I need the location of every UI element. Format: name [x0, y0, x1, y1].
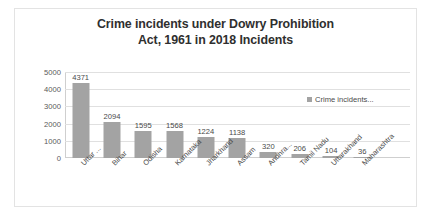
chart-title: Crime incidents under Dowry Prohibition …	[15, 16, 416, 48]
bar-slot[interactable]: 2094	[96, 72, 127, 158]
y-tick-label: 3000	[44, 102, 61, 111]
x-tick-slot: Odisha	[128, 159, 159, 207]
plot-area: 4371 2094 1595 1568 1224 1138 320 206	[65, 72, 410, 158]
x-tick-slot: Uttar ...	[65, 159, 96, 207]
x-tick-slot: Bihar	[96, 159, 127, 207]
bar-slot[interactable]: 4371	[65, 72, 96, 158]
bar[interactable]	[72, 83, 89, 158]
chart-card: Crime incidents under Dowry Prohibition …	[14, 8, 417, 207]
bar-slot[interactable]: 1595	[128, 72, 159, 158]
y-tick-label: 2000	[44, 119, 61, 128]
y-axis-tick-labels: 0 1000 2000 3000 4000 5000	[29, 72, 61, 158]
legend-swatch-icon	[307, 97, 312, 102]
x-tick-slot: Andhra...	[253, 159, 284, 207]
x-axis-tick-labels: Uttar ... Bihar Odisha Karnataka Jharkha…	[65, 159, 410, 207]
y-tick-label: 4000	[44, 85, 61, 94]
bar-slot[interactable]: 320	[253, 72, 284, 158]
x-tick-slot: Tamil Nadu	[284, 159, 315, 207]
y-tick-label: 5000	[44, 68, 61, 77]
x-tick-slot: Maharashtra	[347, 159, 378, 207]
x-tick-slot: Jharkhand	[190, 159, 221, 207]
bar-value-label: 1224	[197, 127, 214, 136]
legend-label: Crime incidents...	[315, 95, 374, 104]
bar-value-label: 1595	[135, 121, 152, 130]
bar-value-label: 1138	[229, 128, 245, 137]
chart-legend[interactable]: Crime incidents...	[307, 95, 374, 104]
y-tick-label: 1000	[44, 136, 61, 145]
bar-slot[interactable]: 1568	[159, 72, 190, 158]
bar-value-label: 320	[262, 142, 275, 151]
bar-value-label: 206	[293, 144, 306, 153]
x-tick-slot: Assam	[222, 159, 253, 207]
x-tick-slot: Karnataka	[159, 159, 190, 207]
bar-value-label: 2094	[103, 112, 120, 121]
chart-title-line-2: Act, 1961 in 2018 Incidents	[15, 32, 416, 48]
bar-value-label: 1568	[166, 121, 183, 130]
y-tick-label: 0	[57, 154, 61, 163]
bar-value-label: 4371	[72, 73, 89, 82]
chart-title-line-1: Crime incidents under Dowry Prohibition	[15, 16, 416, 32]
x-tick-slot: Uttarakhand	[315, 159, 346, 207]
